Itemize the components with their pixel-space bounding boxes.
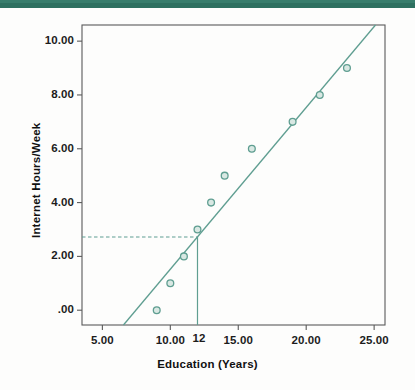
y-tick-label: 10.00 (24, 34, 74, 46)
data-points (153, 65, 350, 314)
x-axis-title: Education (Years) (0, 358, 415, 370)
regression-line (123, 25, 375, 325)
figure-root: .002.004.006.008.0010.00 5.0010.0015.002… (0, 0, 415, 390)
x-tick-label: 10.00 (140, 334, 200, 346)
x-tick-label: 20.00 (276, 334, 336, 346)
y-tick-label: 8.00 (24, 88, 74, 100)
y-tick-label: 2.00 (24, 249, 74, 261)
y-axis-title: Internet Hours/Week (30, 123, 42, 238)
y-tick-label: .00 (24, 303, 74, 315)
axis-ticks (77, 41, 374, 330)
x-tick-label: 15.00 (208, 334, 268, 346)
x-tick-label: 5.00 (72, 334, 132, 346)
plot-frame (82, 25, 385, 325)
annotation-lines (82, 237, 197, 325)
x-tick-label: 25.00 (344, 334, 404, 346)
prediction-x-label: 12 (192, 332, 205, 344)
scatter-chart: .002.004.006.008.0010.00 5.0010.0015.002… (0, 0, 415, 390)
